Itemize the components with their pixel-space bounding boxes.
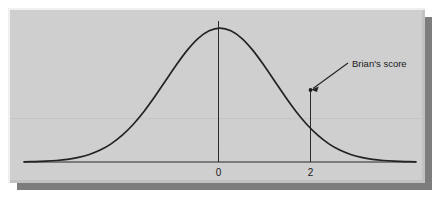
annotation-label: Brian's score [352,58,407,69]
x-tick-label-2: 2 [308,167,314,178]
normal-distribution-figure: Brian's score 0 2 [0,0,441,200]
figure-container: Brian's score 0 2 [0,0,441,200]
x-tick-label-0: 0 [216,167,222,178]
panel-right-shade [422,10,425,183]
panel-bottom-shade [10,180,425,183]
